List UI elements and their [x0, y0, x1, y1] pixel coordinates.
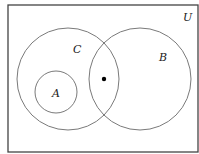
set-b-label: B — [158, 51, 167, 64]
element-point — [102, 77, 106, 81]
universe-label: U — [183, 11, 193, 24]
set-c-label: C — [73, 43, 82, 56]
venn-diagram: U C B A — [0, 0, 199, 154]
set-a-label: A — [51, 87, 60, 100]
